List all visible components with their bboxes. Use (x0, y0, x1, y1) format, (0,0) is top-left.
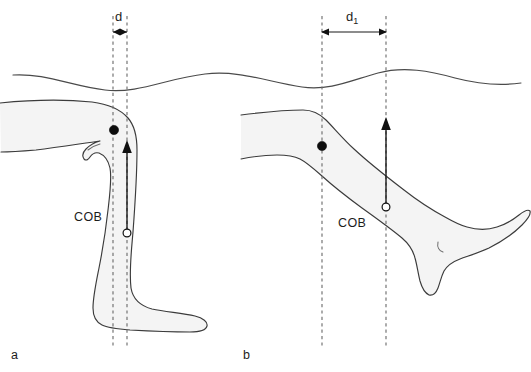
diagram-canvas (0, 0, 531, 372)
cob-label-panel-b: COB (338, 217, 366, 230)
panel-label-b: b (243, 349, 250, 362)
panel-label-a: a (11, 349, 18, 362)
joint-marker-panel-a (109, 125, 118, 134)
dimension-label-subscript-panel-b: 1 (353, 16, 358, 26)
dimension-arrowhead-right-panel-a (120, 29, 127, 36)
dimension-arrowhead-left-panel-a (113, 29, 120, 36)
joint-marker-panel-b (317, 141, 326, 150)
dimension-label-panel-b: d1 (346, 10, 358, 23)
figure-container: d d1 COB COB a b (0, 0, 531, 372)
limb-silhouette-panel-a (0, 100, 207, 332)
cob-label-panel-a: COB (74, 211, 102, 224)
buoyant-force-arrowhead-panel-b (381, 117, 391, 130)
dimension-label-panel-a: d (115, 10, 122, 23)
center-of-buoyancy-marker-panel-a (123, 229, 131, 237)
center-of-buoyancy-marker-panel-b (382, 203, 390, 211)
water-surface-line (13, 70, 521, 91)
